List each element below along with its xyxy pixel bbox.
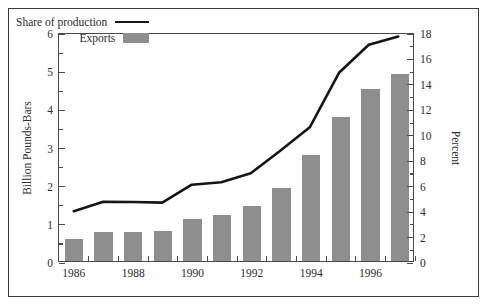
x-tick-1992 [266,256,267,261]
x-tick-label-1994: 1994 [300,267,323,279]
y-tick-minor-2.5 [59,167,63,168]
y2-tick-label-14: 14 [420,79,432,91]
y2-tick-label-6: 6 [420,181,426,193]
y2-tick-label-18: 18 [420,28,432,40]
y2-tick-minor-11 [410,123,414,124]
y2-tick-major-4 [407,212,413,213]
y-tick-minor-0.5 [59,243,63,244]
plot-area: 0123456024681012141618198619881990199219… [58,33,414,262]
y2-tick-major-2 [407,237,413,238]
right-axis-title: Percent [448,33,464,262]
y2-tick-major-14 [407,84,413,85]
x-tick-label-1990: 1990 [181,267,204,279]
y-tick-minor-5.5 [59,53,63,54]
left-axis-title-text: Billion Pounds-Bars [21,101,33,195]
share-of-production-line [74,37,399,212]
y2-tick-minor-13 [410,97,414,98]
y2-tick-minor-7 [410,173,414,174]
y-tick-label-0: 0 [47,257,53,269]
y-tick-major-0 [59,263,65,264]
y2-tick-minor-3 [410,224,414,225]
y2-tick-major-18 [407,34,413,35]
y-tick-major-1 [59,224,65,225]
right-axis-title-text: Percent [450,130,462,164]
y-tick-minor-1.5 [59,205,63,206]
legend-bar-swatch-icon [123,33,149,43]
y-tick-major-3 [59,148,65,149]
x-tick-1996 [385,256,386,261]
y2-tick-minor-15 [410,72,414,73]
y2-tick-major-0 [407,263,413,264]
y-tick-label-3: 3 [47,143,53,155]
line-series-layer [59,34,413,261]
y2-tick-major-8 [407,161,413,162]
y-tick-label-4: 4 [47,104,53,116]
legend-label-exports: Exports [80,32,116,44]
y2-tick-minor-9 [410,148,414,149]
x-tick-1994 [326,256,327,261]
y2-tick-minor-17 [410,46,414,47]
chart-legend: Share of production Exports [16,14,149,46]
x-tick-1990 [207,256,208,261]
y-tick-label-5: 5 [47,66,53,78]
y2-tick-label-8: 8 [420,155,426,167]
x-tick-1997 [415,256,416,261]
y2-tick-minor-5 [410,199,414,200]
x-tick-1987 [118,256,119,261]
x-tick-1989 [177,256,178,261]
x-tick-label-1986: 1986 [62,267,85,279]
y-tick-major-5 [59,72,65,73]
y2-tick-label-4: 4 [420,206,426,218]
x-tick-1995 [355,256,356,261]
legend-item-exports: Exports [16,30,149,46]
y2-tick-major-10 [407,135,413,136]
y-tick-minor-3.5 [59,129,63,130]
y-tick-label-2: 2 [47,181,53,193]
y2-tick-minor-1 [410,250,414,251]
x-tick-1986 [88,256,89,261]
legend-line-swatch-icon [115,21,149,24]
y-tick-label-1: 1 [47,219,53,231]
y-tick-major-2 [59,186,65,187]
y2-tick-label-2: 2 [420,232,426,244]
y2-tick-label-10: 10 [420,130,432,142]
y2-tick-label-12: 12 [420,104,432,116]
y2-tick-label-16: 16 [420,53,432,65]
x-tick-label-1992: 1992 [240,267,263,279]
y2-tick-major-16 [407,59,413,60]
x-tick-1993 [296,256,297,261]
left-axis-title: Billion Pounds-Bars [19,33,35,262]
y2-tick-label-0: 0 [420,257,426,269]
y2-tick-major-6 [407,186,413,187]
legend-label-share-of-production: Share of production [16,16,107,28]
chart-figure: Billion Pounds-Bars Percent 012345602468… [0,0,487,305]
y2-tick-major-12 [407,110,413,111]
y-tick-minor-4.5 [59,91,63,92]
x-tick-1988 [148,256,149,261]
x-tick-1991 [237,256,238,261]
x-tick-label-1988: 1988 [122,267,145,279]
y-tick-major-4 [59,110,65,111]
legend-item-share-of-production: Share of production [16,14,149,30]
x-tick-label-1996: 1996 [359,267,382,279]
